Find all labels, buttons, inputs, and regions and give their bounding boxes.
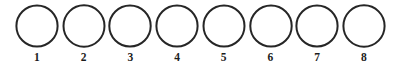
circle-item[interactable] <box>62 4 106 52</box>
circle-item[interactable] <box>108 4 152 52</box>
circle-label: 7 <box>295 51 339 64</box>
circle-item[interactable] <box>202 4 246 52</box>
circle-item[interactable] <box>15 4 59 52</box>
circle-outline-icon <box>108 4 152 48</box>
circle-item[interactable] <box>295 4 339 52</box>
numbered-circles-figure: 1 2 3 4 5 6 7 8 <box>0 0 401 71</box>
circle-label: 4 <box>155 51 199 64</box>
circle-label: 8 <box>342 51 386 64</box>
circle-outline-icon <box>249 4 293 48</box>
circle-item[interactable] <box>342 4 386 52</box>
circle-label: 5 <box>202 51 246 64</box>
circle-outline-icon <box>15 4 59 48</box>
circle-outline-icon <box>155 4 199 48</box>
circle-item[interactable] <box>249 4 293 52</box>
circle-outline-icon <box>342 4 386 48</box>
circle-label: 3 <box>108 51 152 64</box>
circle-label: 2 <box>62 51 106 64</box>
circle-outline-icon <box>295 4 339 48</box>
circle-item[interactable] <box>155 4 199 52</box>
circle-label-row: 1 2 3 4 5 6 7 8 <box>15 51 386 67</box>
circle-label: 6 <box>249 51 293 64</box>
circle-label: 1 <box>15 51 59 64</box>
circle-outline-icon <box>202 4 246 48</box>
circle-row <box>15 4 386 52</box>
circle-outline-icon <box>62 4 106 48</box>
